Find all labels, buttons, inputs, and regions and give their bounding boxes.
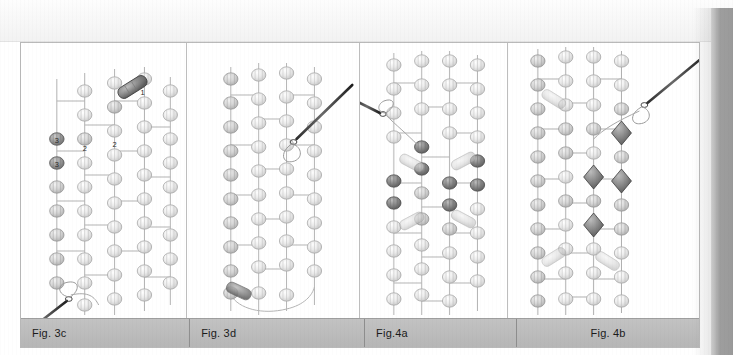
- figure-panel-fig-4a: [359, 43, 507, 321]
- page-edge-strip: [711, 8, 733, 355]
- page-edge-shadow: [693, 8, 711, 355]
- beadwork-illustration-fig-3c: 1 2 2 3 3: [21, 43, 186, 321]
- figure-panels: 1 2 2 3 3: [21, 43, 699, 321]
- svg-text:3: 3: [55, 136, 59, 145]
- figure-caption-fig-4b: Fig. 4b: [516, 319, 699, 347]
- svg-text:2: 2: [113, 140, 117, 149]
- figure-caption-fig-3d: Fig. 3d: [189, 319, 364, 347]
- figure-caption-bar: Fig. 3c Fig. 3d Fig.4a Fig. 4b: [21, 318, 699, 347]
- figure-panel-fig-3c: 1 2 2 3 3: [21, 43, 186, 321]
- svg-text:2: 2: [83, 144, 87, 153]
- figure-caption-fig-4a: Fig.4a: [364, 319, 516, 347]
- beadwork-illustration-fig-3d: [187, 43, 358, 321]
- figure-block: 1 2 2 3 3: [20, 42, 700, 348]
- beadwork-illustration-fig-4b: [508, 43, 699, 321]
- figure-caption-fig-3c: Fig. 3c: [21, 319, 189, 347]
- scanned-page: 1 2 2 3 3: [0, 0, 733, 355]
- beadwork-illustration-fig-4a: [360, 43, 507, 321]
- svg-text:1: 1: [140, 88, 144, 97]
- svg-text:3: 3: [55, 160, 59, 169]
- needle-icon: [593, 57, 699, 139]
- figure-panel-fig-4b: [507, 43, 699, 321]
- page-top-margin: [0, 0, 733, 42]
- figure-panel-fig-3d: [186, 43, 358, 321]
